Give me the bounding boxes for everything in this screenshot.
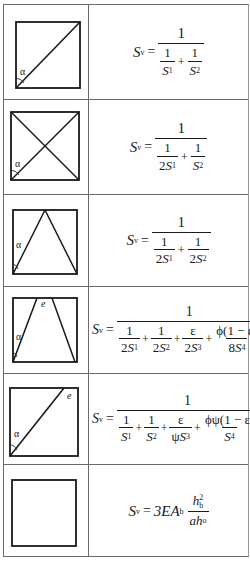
chevron-figure: α <box>12 209 78 275</box>
figure-cell: α <box>4 5 89 99</box>
table-row: α Sv = 1 12S1 + 1S2 <box>4 100 248 195</box>
diagonal-eccentric-figure: α e <box>9 387 79 457</box>
alpha-label: α <box>20 66 26 77</box>
figure-cell: α <box>4 195 89 286</box>
bracing-stiffness-table: α Sv = 1 1S1 + 1S2 <box>3 4 249 557</box>
formula-cell: Sv = 3EAb h2b aho <box>89 465 248 557</box>
figure-cell: α e <box>4 374 89 464</box>
figure-cell: α e <box>4 287 89 373</box>
alpha-label: α <box>16 239 22 250</box>
eccentricity-label: e <box>41 298 46 309</box>
formula: Sv = 1 1S1 + 1S2 <box>133 26 204 77</box>
formula: Sv = 1 1S1 + 1S2 + εψS3 + ϕψ(1 − ε)S4 <box>92 394 250 444</box>
k-bracing-eccentric-figure: α e <box>12 297 78 363</box>
alpha-label: α <box>16 331 22 342</box>
formula-cell: Sv = 1 12S1 + 12S2 + ε2S3 + ϕ(1 − ε)8S4 <box>89 287 248 373</box>
formula-cell: Sv = 1 12S1 + 1S2 <box>89 100 248 194</box>
x-bracing-figure: α <box>10 111 80 181</box>
empty-frame-figure <box>11 479 77 547</box>
formula: Sv = 1 12S1 + 12S2 <box>126 215 210 266</box>
formula: Sv = 3EAb h2b aho <box>128 494 208 528</box>
table-row: α e Sv = 1 12S1 + 12S2 + ε2S3 + <box>4 287 248 374</box>
figure-cell <box>4 465 89 557</box>
table-row: α Sv = 1 1S1 + 1S2 <box>4 5 248 100</box>
table-row: Sv = 3EAb h2b aho <box>4 465 248 557</box>
formula: Sv = 1 12S1 + 12S2 + ε2S3 + ϕ(1 − ε)8S4 <box>92 305 250 355</box>
eccentricity-label: e <box>67 390 72 401</box>
single-diagonal-figure: α <box>15 21 81 89</box>
formula-cell: Sv = 1 1S1 + 1S2 + εψS3 + ϕψ(1 − ε)S4 <box>89 374 248 464</box>
formula-cell: Sv = 1 12S1 + 12S2 <box>89 195 248 286</box>
table-row: α e Sv = 1 1S1 + 1S2 + εψS3 + <box>4 374 248 465</box>
formula: Sv = 1 12S1 + 1S2 <box>130 121 208 172</box>
alpha-label: α <box>15 158 21 169</box>
formula-cell: Sv = 1 1S1 + 1S2 <box>89 5 248 99</box>
figure-cell: α <box>4 100 89 194</box>
table-row: α Sv = 1 12S1 + 12S2 <box>4 195 248 287</box>
alpha-label: α <box>14 428 20 439</box>
